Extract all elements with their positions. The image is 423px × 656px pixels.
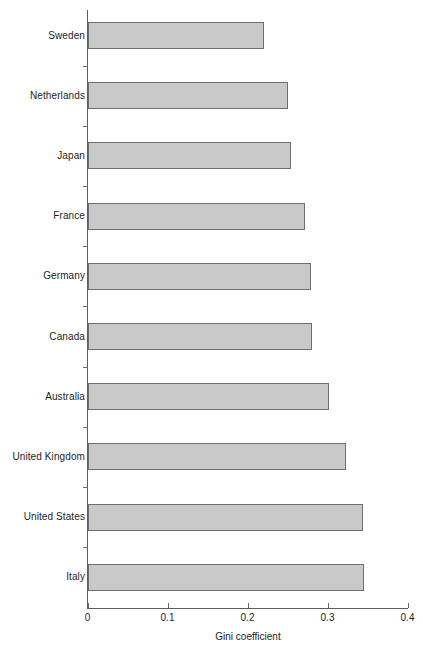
y-axis-tick [83, 487, 88, 488]
bar-australia [88, 383, 330, 410]
category-label-netherlands: Netherlands [0, 90, 85, 102]
x-axis-tick [168, 603, 169, 608]
x-tick-label: 0.1 [138, 612, 198, 624]
x-tick-label: 0.4 [378, 612, 423, 624]
x-axis-line [87, 608, 408, 609]
category-label-united-kingdom: United Kingdom [0, 451, 85, 463]
bar-united-states [88, 504, 363, 531]
category-label-australia: Australia [0, 391, 85, 403]
y-axis-tick [83, 126, 88, 127]
gini-coefficient-bar-chart: SwedenNetherlandsJapanFranceGermanyCanad… [0, 0, 423, 656]
category-label-text: Netherlands [30, 90, 85, 102]
x-tick-label: 0.2 [218, 612, 278, 624]
x-axis-tick [328, 603, 329, 608]
x-tick-label: 0.3 [298, 612, 358, 624]
bar-sweden [88, 22, 265, 49]
x-axis-tick [248, 603, 249, 608]
bar-japan [88, 142, 291, 169]
category-label-sweden: Sweden [0, 30, 85, 42]
category-label-text: Italy [66, 571, 85, 583]
category-label-japan: Japan [0, 150, 85, 162]
y-axis-tick [83, 427, 88, 428]
category-label-text: Japan [57, 150, 85, 162]
y-axis-tick [83, 186, 88, 187]
category-label-text: United States [24, 511, 85, 523]
y-axis-tick [83, 306, 88, 307]
x-axis-tick [408, 603, 409, 608]
category-label-italy: Italy [0, 571, 85, 583]
category-label-canada: Canada [0, 331, 85, 343]
bar-italy [88, 564, 364, 591]
y-axis-tick [83, 367, 88, 368]
bar-france [88, 203, 306, 230]
y-axis-tick [83, 547, 88, 548]
y-axis-tick [83, 246, 88, 247]
category-label-france: France [0, 210, 85, 222]
category-label-text: Sweden [48, 30, 85, 42]
category-label-text: France [53, 210, 85, 222]
x-axis-tick [88, 603, 89, 608]
bar-germany [88, 263, 311, 290]
bar-united-kingdom [88, 443, 346, 470]
x-axis-title: Gini coefficient [88, 631, 408, 643]
bar-netherlands [88, 82, 288, 109]
y-axis-tick [83, 66, 88, 67]
category-label-germany: Germany [0, 270, 85, 282]
bar-canada [88, 323, 313, 350]
category-label-united-states: United States [0, 511, 85, 523]
category-label-text: United Kingdom [12, 451, 85, 463]
category-label-text: Germany [43, 270, 85, 282]
category-label-text: Australia [45, 391, 85, 403]
category-label-text: Canada [49, 331, 85, 343]
x-tick-label: 0 [58, 612, 118, 624]
